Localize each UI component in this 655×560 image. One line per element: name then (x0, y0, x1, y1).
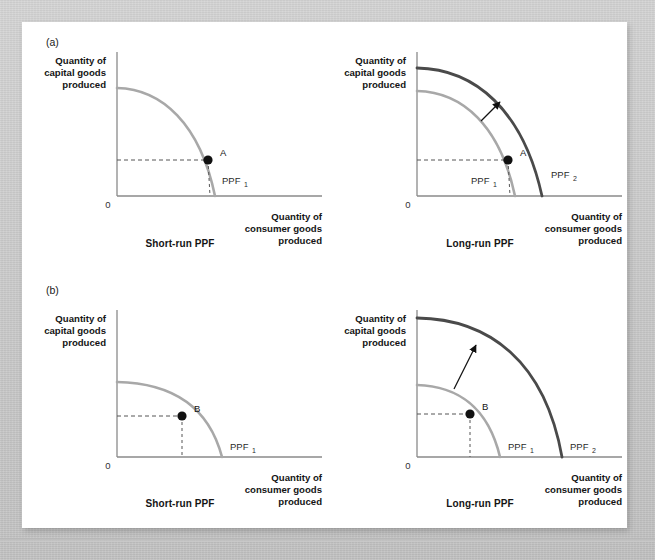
origin-label: 0 (405, 199, 410, 210)
caption-a-short-run: Short-run PPF (30, 238, 330, 249)
ppf1-label-subscript: 1 (252, 447, 256, 454)
ppf1-label-subscript: 1 (530, 447, 534, 454)
chart-b-short-run: Quantity of capital goods produced 0 B P… (30, 292, 330, 517)
caption-b-long-run: Long-run PPF (330, 498, 630, 509)
ppf1-label-subscript: 1 (244, 181, 248, 188)
ppf1-label-subscript: 1 (493, 181, 497, 188)
x-axis-label-line2: consumer goods (245, 484, 322, 495)
ppf1-curve (117, 88, 215, 196)
ppf1-curve (117, 382, 222, 457)
y-axis-label-line3: produced (362, 79, 406, 90)
y-axis-label-line2: capital goods (44, 325, 106, 336)
ppf2-label-subscript: 2 (573, 175, 577, 182)
y-axis-label-line2: capital goods (344, 325, 406, 336)
x-axis-label-line1: Quantity of (271, 472, 322, 483)
origin-label: 0 (105, 460, 110, 471)
origin-label: 0 (105, 199, 110, 210)
x-axis-label-line2: consumer goods (545, 484, 622, 495)
point-a-label: A (220, 147, 227, 158)
y-axis-label-line3: produced (62, 337, 106, 348)
point-b-marker (177, 411, 186, 420)
panel-group-a: (a) Quantity of capital goods produced 0 (22, 22, 627, 270)
point-a-marker (503, 155, 512, 164)
shift-arrow (481, 102, 500, 121)
x-axis-label-line1: Quantity of (271, 211, 322, 222)
background-band (0, 538, 655, 542)
y-axis-label-line1: Quantity of (355, 55, 406, 66)
point-b-label: B (194, 403, 200, 414)
shift-arrow (454, 345, 476, 389)
point-a-marker (203, 155, 212, 164)
point-a-label: A (520, 147, 527, 158)
chart-b-long-run: Quantity of capital goods produced 0 (330, 292, 630, 517)
ppf1-label: PPF (222, 175, 241, 186)
caption-b-short-run: Short-run PPF (30, 498, 330, 509)
y-axis-label-line1: Quantity of (55, 313, 106, 324)
y-axis-label-line1: Quantity of (355, 313, 406, 324)
figure-card: (a) Quantity of capital goods produced 0 (22, 22, 627, 528)
caption-a-long-run: Long-run PPF (330, 238, 630, 249)
ppf2-label-subscript: 2 (592, 447, 596, 454)
point-b-label: B (482, 401, 488, 412)
ppf2-label: PPF (551, 169, 570, 180)
x-axis-label-line2: consumer goods (545, 223, 622, 234)
chart-a-long-run: Quantity of capital goods produced 0 (330, 44, 630, 269)
x-axis-label-line1: Quantity of (571, 211, 622, 222)
y-axis-label-line2: capital goods (344, 67, 406, 78)
x-axis-label-line2: consumer goods (245, 223, 322, 234)
x-axis-label-line1: Quantity of (571, 472, 622, 483)
ppf1-label: PPF (471, 175, 490, 186)
y-axis-label-line3: produced (362, 337, 406, 348)
ppf1-label: PPF (230, 441, 249, 452)
point-b-marker (465, 409, 474, 418)
ppf2-label: PPF (570, 441, 589, 452)
origin-label: 0 (405, 460, 410, 471)
ppf1-label: PPF (508, 441, 527, 452)
y-axis-label-line3: produced (62, 79, 106, 90)
ppf1-curve (417, 385, 500, 457)
panel-group-b: (b) Quantity of capital goods produced 0… (22, 270, 627, 528)
y-axis-label-line1: Quantity of (55, 55, 106, 66)
chart-a-short-run: Quantity of capital goods produced 0 A P… (30, 44, 330, 269)
y-axis-label-line2: capital goods (44, 67, 106, 78)
